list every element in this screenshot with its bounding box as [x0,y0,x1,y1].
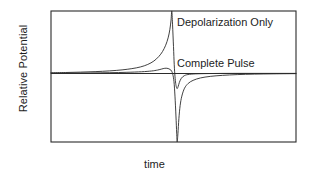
depolarization-only-label: Depolarization Only [177,16,273,28]
x-axis-label: time [0,158,309,171]
series-complete-pulse [51,68,296,142]
complete-pulse-label: Complete Pulse [177,57,255,69]
plot-area: Depolarization Only Complete Pulse [0,0,309,180]
figure-container: Relative Potential Depolarization Only C… [0,0,309,180]
